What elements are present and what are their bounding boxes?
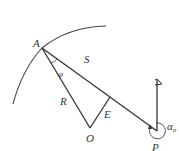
segment-AO: [42, 48, 90, 128]
label-S: S: [84, 53, 90, 65]
label-phi: φ: [58, 69, 63, 79]
angle-phi-arc: [51, 59, 57, 63]
label-A: A: [32, 37, 40, 49]
label-R: R: [59, 95, 67, 107]
segment-AP: [42, 48, 157, 131]
label-alpha: αo: [167, 120, 177, 134]
label-P: P: [151, 141, 159, 151]
label-O: O: [86, 132, 94, 144]
geometry-diagram: A S φ R O E P αo: [0, 0, 179, 151]
label-E: E: [103, 108, 111, 120]
circle-arc: [13, 26, 106, 104]
flag-icon: [155, 79, 162, 85]
